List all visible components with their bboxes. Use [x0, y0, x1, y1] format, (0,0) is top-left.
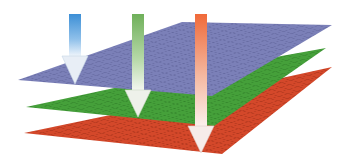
layers-diagram: [0, 0, 350, 166]
